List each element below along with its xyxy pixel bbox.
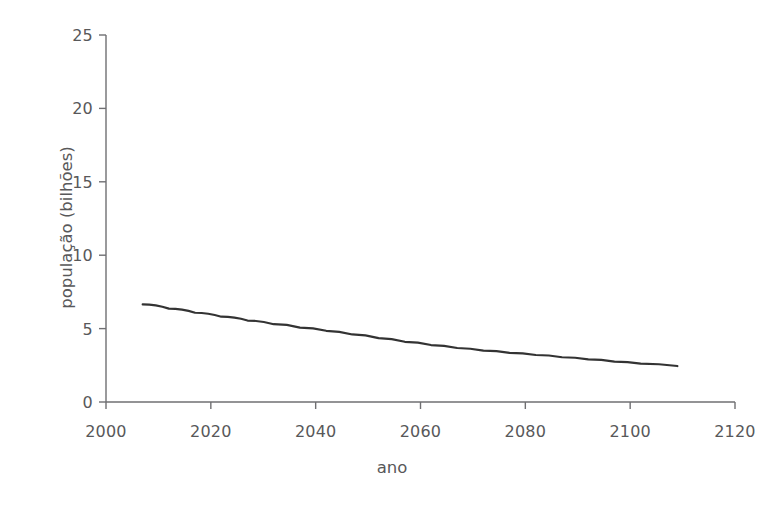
x-tick-label: 2060 [400,422,442,441]
x-tick-label: 2120 [714,422,756,441]
x-axis-title: ano [0,458,784,477]
y-axis-title: população (bilhões) [57,108,76,348]
population-projection-chart: 05101520252000202020402060208021002120 p… [0,0,784,518]
y-tick-label: 25 [43,26,93,45]
data-series-layer [143,304,678,366]
x-tick-label: 2020 [190,422,232,441]
x-tick-label: 2040 [295,422,337,441]
axis-lines [106,35,735,402]
data-line-0 [143,304,678,366]
x-tick-label: 2080 [505,422,547,441]
x-tick-label: 2000 [85,422,127,441]
axis-ticks [99,35,735,409]
x-tick-label: 2100 [609,422,651,441]
y-tick-label: 0 [43,393,93,412]
